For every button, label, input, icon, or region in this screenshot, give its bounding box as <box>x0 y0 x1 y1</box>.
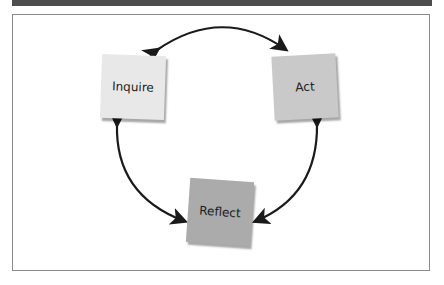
node-reflect: Reflect <box>186 178 254 246</box>
node-reflect-label: Reflect <box>199 204 241 221</box>
arrow-inquire-act <box>157 27 285 50</box>
arrow-inquire-reflect <box>117 124 184 221</box>
node-inquire-label: Inquire <box>112 79 154 94</box>
node-act-label: Act <box>295 80 315 95</box>
arrow-act-reflect <box>256 124 317 221</box>
node-act: Act <box>271 53 338 120</box>
node-inquire: Inquire <box>100 54 166 120</box>
